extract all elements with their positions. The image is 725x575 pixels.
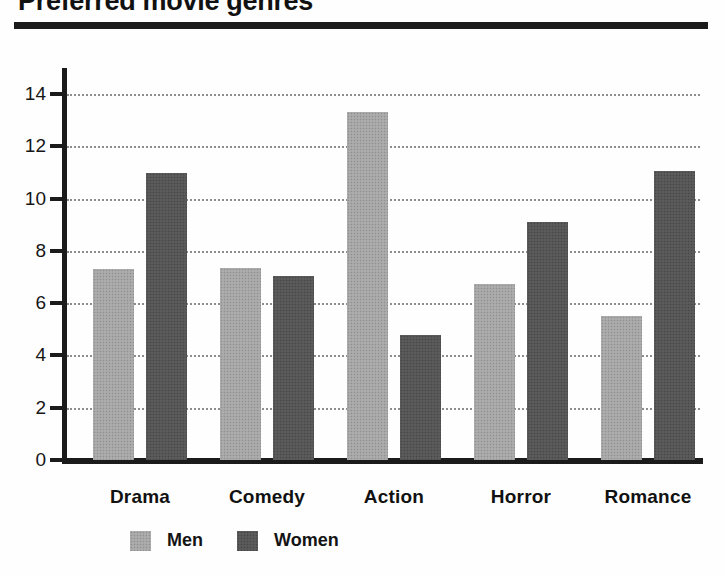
y-tick-label: 6 — [35, 292, 46, 314]
y-tick-mark — [50, 92, 62, 96]
plot-area: 02468101214 — [62, 68, 700, 460]
legend-item-women[interactable]: Women — [237, 530, 339, 551]
bar-drama-men[interactable] — [93, 269, 134, 460]
legend-label: Women — [274, 530, 339, 551]
chart-card: Preferred movie genres 02468101214 Drama… — [0, 0, 725, 575]
y-tick-mark — [50, 458, 62, 462]
bar-group — [474, 68, 568, 460]
bar-action-men[interactable] — [347, 112, 388, 460]
x-axis-label-romance: Romance — [605, 486, 692, 508]
chart-plot-wrapper: 02468101214 DramaComedyActionHorrorRoman… — [0, 0, 725, 575]
y-tick-label: 12 — [25, 135, 46, 157]
x-axis-label-drama: Drama — [110, 486, 170, 508]
y-tick-label: 14 — [25, 83, 46, 105]
y-tick-label: 4 — [35, 344, 46, 366]
y-tick-mark — [50, 406, 62, 410]
y-tick-mark — [50, 144, 62, 148]
x-axis-label-action: Action — [364, 486, 424, 508]
bar-horror-men[interactable] — [474, 284, 515, 460]
bar-group — [220, 68, 314, 460]
legend-item-men[interactable]: Men — [130, 530, 203, 551]
bar-group — [93, 68, 187, 460]
y-tick-label: 2 — [35, 397, 46, 419]
bar-group — [347, 68, 441, 460]
chart-legend: MenWomen — [130, 530, 339, 551]
y-tick-label: 10 — [25, 188, 46, 210]
y-tick-label: 8 — [35, 240, 46, 262]
bar-horror-women[interactable] — [527, 222, 568, 460]
y-tick-mark — [50, 197, 62, 201]
x-axis-label-comedy: Comedy — [229, 486, 305, 508]
light-gray-swatch — [130, 531, 151, 551]
y-tick-mark — [50, 249, 62, 253]
bar-comedy-women[interactable] — [273, 276, 314, 460]
bar-comedy-men[interactable] — [220, 268, 261, 460]
bar-romance-men[interactable] — [601, 316, 642, 460]
y-tick-mark — [50, 353, 62, 357]
bar-romance-women[interactable] — [654, 171, 695, 460]
x-axis-label-horror: Horror — [491, 486, 551, 508]
y-tick-mark — [50, 301, 62, 305]
y-tick-label: 0 — [35, 449, 46, 471]
bar-group — [601, 68, 695, 460]
dark-gray-swatch — [237, 531, 258, 551]
bar-action-women[interactable] — [400, 335, 441, 460]
bar-drama-women[interactable] — [146, 173, 187, 460]
legend-label: Men — [167, 530, 203, 551]
